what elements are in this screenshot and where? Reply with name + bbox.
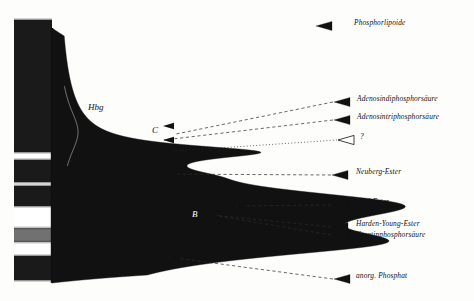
leader-line bbox=[164, 120, 333, 140]
pointer-arrow-icon bbox=[316, 21, 332, 30]
curve-label-b1: B1 bbox=[143, 169, 152, 180]
curve-label-subscript: 1 bbox=[149, 174, 152, 180]
curve-arrow-b-icon bbox=[205, 212, 216, 218]
annotation-layer bbox=[0, 0, 474, 301]
pointer-arrow-icon bbox=[332, 222, 348, 231]
curve-arrow-cori-icon bbox=[236, 203, 247, 209]
pointer-arrow-hollow-icon bbox=[338, 135, 354, 144]
leader-line bbox=[160, 140, 337, 152]
legend-label-kreatinphosphat: Kreatinphosphorsäure bbox=[356, 231, 425, 238]
pointer-arrow-icon bbox=[334, 97, 350, 106]
legend-label-adp: Adenosindiphosphorsäure bbox=[357, 95, 438, 102]
legend-label-anorg-phosphat: anorg. Phosphat bbox=[356, 272, 407, 279]
curve-arrow-b1-icon bbox=[163, 171, 174, 177]
curve-label-b: B bbox=[192, 210, 198, 219]
pointer-arrow-icon bbox=[332, 170, 348, 179]
legend-label-neuberg: Neuberg-Ester bbox=[356, 168, 401, 175]
pointer-arrow-icon bbox=[334, 274, 350, 283]
legend-label-atp: Adenosintriphosphorsäure bbox=[357, 113, 439, 120]
leader-line bbox=[176, 102, 333, 134]
curve-label-hbg: Hbg bbox=[88, 103, 104, 112]
legend-label-unknown: ? bbox=[360, 133, 364, 140]
pointer-arrow-icon bbox=[332, 230, 348, 239]
figure-canvas: HbgCB1BA PhosphorlipoideAdenosindiphosph… bbox=[0, 0, 474, 301]
curve-label-a: A bbox=[146, 255, 152, 264]
pointer-arrow-icon bbox=[334, 115, 350, 124]
curve-arrow-a-icon bbox=[168, 254, 179, 260]
legend-label-cori: Cori-Ester bbox=[356, 198, 389, 205]
leader-line bbox=[163, 174, 331, 175]
legend-label-phospholipide: Phosphorlipoide bbox=[354, 19, 406, 26]
legend-label-harden-young: Harden-Young-Ester bbox=[356, 220, 420, 227]
curve-arrow-unknown-icon bbox=[160, 149, 171, 155]
leader-line bbox=[168, 257, 333, 279]
pointer-arrow-icon bbox=[332, 200, 348, 209]
curve-label-c: C bbox=[152, 126, 158, 135]
curve-arrow-c-upper-icon bbox=[163, 123, 174, 129]
leader-line bbox=[236, 205, 331, 206]
curve-arrow-c-lower-icon bbox=[163, 137, 174, 143]
